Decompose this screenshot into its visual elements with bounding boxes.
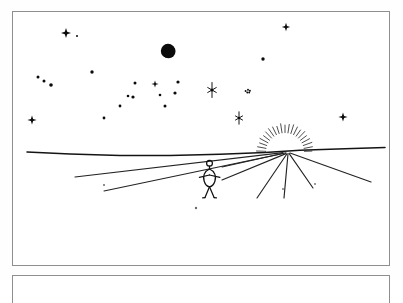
secondary-panel-below bbox=[12, 275, 390, 303]
drawing-panel bbox=[12, 11, 390, 266]
